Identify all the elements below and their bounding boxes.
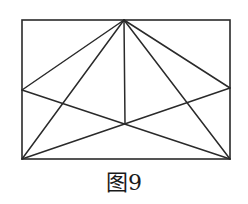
segment-apex-right_mid xyxy=(124,20,230,88)
figure-caption: 图9 xyxy=(0,168,248,198)
segment-apex-center xyxy=(124,20,125,124)
segment-apex-bottom_right xyxy=(124,20,230,159)
outer-rectangle xyxy=(22,20,230,159)
segment-apex-bottom_left xyxy=(22,20,124,159)
line-segments xyxy=(22,20,230,159)
segment-apex-left_mid xyxy=(22,20,124,90)
